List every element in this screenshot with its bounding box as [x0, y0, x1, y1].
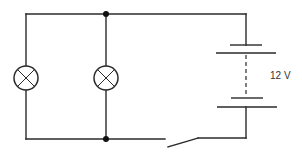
- junction-dot-top: [103, 11, 109, 17]
- lamp-left: [14, 66, 38, 90]
- switch: [168, 138, 246, 147]
- battery: 12 V: [216, 45, 291, 107]
- junction-dot-bottom: [103, 136, 109, 142]
- switch-lever: [168, 138, 198, 147]
- lamp-middle: [94, 66, 118, 90]
- battery-voltage-label: 12 V: [270, 70, 291, 81]
- circuit-diagram: 12 V: [0, 0, 302, 157]
